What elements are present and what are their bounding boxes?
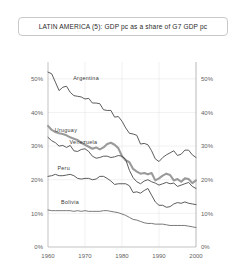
- x-tick-label: 1990: [152, 253, 166, 259]
- y-tick-label-right: 40%: [201, 110, 214, 116]
- series-label-bolivia: Bolivia: [61, 199, 79, 205]
- y-tick-label-right: 30%: [201, 143, 214, 149]
- x-tick-label: 1960: [41, 253, 55, 259]
- y-tick-label-right: 50%: [201, 76, 214, 82]
- x-tick-label: 1970: [78, 253, 92, 259]
- y-tick-label-left: 30%: [31, 143, 44, 149]
- chart-title-box: LATIN AMERICA (5): GDP pc as a share of …: [18, 17, 228, 36]
- x-tick-label: 1980: [115, 253, 129, 259]
- y-axis-right-ticks: 0%10%20%30%40%50%: [201, 76, 214, 250]
- series-label-peru: Peru: [57, 165, 70, 171]
- y-tick-label-left: 20%: [31, 177, 44, 183]
- line-chart: 0%10%20%30%40%50% 0%10%20%30%40%50% 1960…: [0, 40, 246, 265]
- page-title: LATIN AMERICA (5): GDP pc as a share of …: [39, 23, 208, 30]
- series-label-venezuela: Venezuela: [70, 139, 98, 145]
- plot-area: 0%10%20%30%40%50% 0%10%20%30%40%50% 1960…: [0, 40, 246, 265]
- x-axis-ticks: 19601970198019902000: [41, 253, 203, 259]
- y-tick-label-left: 0%: [34, 244, 43, 250]
- chart-screenshot: LATIN AMERICA (5): GDP pc as a share of …: [0, 0, 246, 275]
- y-tick-label-left: 10%: [31, 211, 44, 217]
- y-tick-label-left: 40%: [31, 110, 44, 116]
- y-axis-left-ticks: 0%10%20%30%40%50%: [31, 76, 44, 250]
- y-tick-label-right: 20%: [201, 177, 214, 183]
- x-tick-label: 2000: [189, 253, 203, 259]
- y-tick-label-right: 0%: [201, 244, 210, 250]
- series-label-argentina: Argentina: [73, 75, 99, 81]
- series-label-uruguay: Uruguay: [55, 127, 77, 133]
- y-tick-label-left: 50%: [31, 76, 44, 82]
- y-tick-label-right: 10%: [201, 211, 214, 217]
- series-labels-group: ArgentinaUruguayVenezuelaPeruBolivia: [55, 75, 99, 206]
